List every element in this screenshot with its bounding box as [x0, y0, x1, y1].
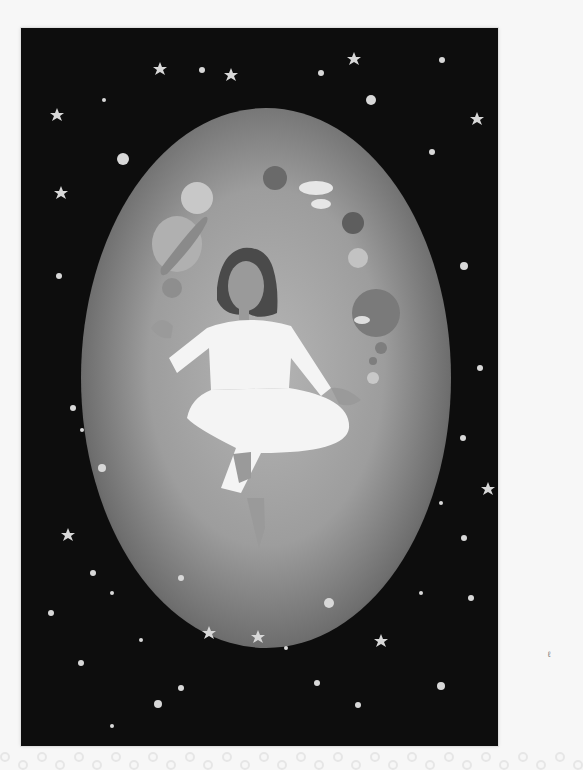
background-dot: [185, 752, 195, 762]
background-dot: [370, 752, 380, 762]
background-dot: [0, 752, 10, 762]
background-dot: [203, 760, 213, 770]
background-dot: [18, 760, 28, 770]
background-dot: [129, 760, 139, 770]
edge-mark: ℓ: [548, 650, 551, 659]
background-dot: [240, 760, 250, 770]
background-dot: [388, 760, 398, 770]
background-dot: [259, 752, 269, 762]
background-dot: [55, 760, 65, 770]
background-dot: [518, 752, 528, 762]
background-dot: [222, 752, 232, 762]
illustration-artwork: [21, 28, 498, 746]
background-dot: [573, 760, 583, 770]
background-dot: [555, 752, 565, 762]
background-dot: [462, 760, 472, 770]
background-dot: [333, 752, 343, 762]
illustration-frame: [21, 28, 498, 746]
background-dot: [277, 760, 287, 770]
background-dot: [407, 752, 417, 762]
background-dot: [314, 760, 324, 770]
background-dot: [536, 760, 546, 770]
background-dot: [37, 752, 47, 762]
background-dot: [92, 760, 102, 770]
background-dot: [499, 760, 509, 770]
background-dot: [166, 760, 176, 770]
background-dot: [481, 752, 491, 762]
background-dot: [351, 760, 361, 770]
background-dot: [74, 752, 84, 762]
background-dot: [296, 752, 306, 762]
woman-figure: [151, 248, 361, 548]
background-dot: [425, 760, 435, 770]
background-dot: [148, 752, 158, 762]
background-dot: [444, 752, 454, 762]
background-dot: [111, 752, 121, 762]
